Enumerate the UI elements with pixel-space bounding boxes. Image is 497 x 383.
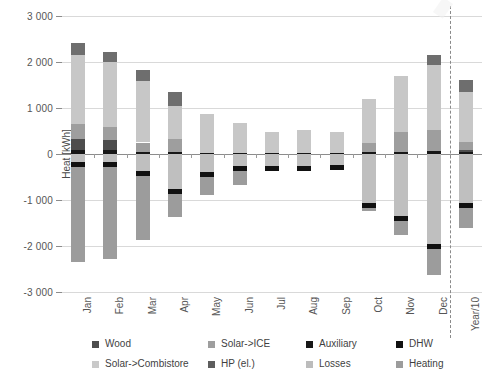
legend-item[interactable]: DHW — [396, 339, 484, 349]
bar-segment — [394, 76, 408, 133]
x-tick-mark — [191, 154, 192, 158]
bar-segment — [168, 92, 182, 106]
x-tick-mark — [417, 154, 418, 158]
bar-segment — [233, 123, 247, 152]
bar-segment — [265, 154, 279, 166]
legend-swatch-icon — [306, 341, 313, 348]
legend-label: HP (el.) — [221, 359, 255, 369]
chart-legend: WoodSolar->ICEAuxiliaryDHWSolar->Combist… — [92, 334, 484, 374]
bar-segment — [362, 208, 376, 211]
legend-swatch-icon — [92, 341, 99, 348]
bar-segment — [427, 65, 441, 129]
legend-item[interactable]: HP (el.) — [208, 359, 306, 369]
bar-segment — [459, 208, 473, 228]
x-tick-mark — [385, 154, 386, 158]
legend-item[interactable]: Solar->ICE — [208, 339, 306, 349]
bar-segment — [459, 150, 473, 152]
y-tick-mark — [56, 154, 62, 155]
bar-stack — [168, 16, 182, 292]
bar-segment — [427, 249, 441, 275]
bar-segment — [168, 106, 182, 138]
legend-item[interactable]: Wood — [92, 339, 208, 349]
legend-swatch-icon — [92, 361, 99, 368]
y-axis-tick-label: -3 000 — [23, 287, 53, 298]
legend-label: Heating — [409, 359, 443, 369]
x-tick-mark — [320, 154, 321, 158]
year-divider-line — [450, 6, 451, 338]
legend-item[interactable]: Heating — [396, 359, 484, 369]
x-axis-tick-label: Sep — [341, 297, 352, 315]
bar-segment — [136, 154, 150, 171]
bar-segment — [297, 154, 311, 166]
legend-swatch-icon — [396, 341, 403, 348]
bar-segment — [71, 43, 85, 55]
x-axis-tick-label: Mar — [147, 297, 158, 314]
x-axis-tick-label: Feb — [114, 297, 125, 314]
bar-segment — [233, 171, 247, 184]
bar-segment — [330, 132, 344, 153]
bar-segment — [297, 130, 311, 153]
bar-segment — [330, 154, 344, 165]
bar-stack — [394, 16, 408, 292]
y-tick-mark — [56, 292, 62, 293]
bar-stack — [362, 16, 376, 292]
x-tick-mark — [288, 154, 289, 158]
bar-segment — [103, 52, 117, 62]
bar-segment — [427, 130, 441, 151]
chart-root: Heat [kWh] 3 0002 0001 0000-1 000-2 000-… — [0, 0, 497, 383]
bar-segment — [168, 194, 182, 217]
legend-label: Solar->ICE — [221, 339, 270, 349]
legend-label: Wood — [105, 339, 131, 349]
bar-segment — [394, 154, 408, 216]
x-tick-mark — [256, 154, 257, 158]
y-tick-mark — [56, 200, 62, 201]
bar-segment — [394, 132, 408, 152]
bar-segment — [103, 62, 117, 126]
y-axis-tick-label: 3 000 — [27, 11, 53, 22]
x-axis-tick-label: Dec — [438, 297, 449, 315]
y-axis-tick-label: -2 000 — [23, 241, 53, 252]
bar-stack — [233, 16, 247, 292]
x-axis-tick-label: Jan — [82, 297, 93, 313]
bar-segment — [103, 167, 117, 259]
legend-item[interactable]: Auxiliary — [306, 339, 396, 349]
bar-segment — [265, 166, 279, 171]
bar-segment — [362, 143, 376, 151]
bar-segment — [71, 167, 85, 262]
bar-segment — [71, 124, 85, 139]
bar-segment — [394, 221, 408, 235]
legend-item[interactable]: Losses — [306, 359, 396, 369]
bar-stack — [103, 16, 117, 292]
legend-label: Auxiliary — [319, 339, 357, 349]
bar-segment — [459, 80, 473, 92]
x-axis-tick-label: Aug — [308, 297, 319, 315]
legend-label: Solar->Combistore — [105, 359, 189, 369]
bar-stack — [459, 16, 473, 292]
bar-segment — [71, 139, 85, 151]
bar-segment — [362, 154, 376, 203]
y-axis-tick-label: -1 000 — [23, 195, 53, 206]
x-tick-mark — [127, 154, 128, 158]
x-axis-tick-label: Nov — [405, 297, 416, 315]
legend-label: Losses — [319, 359, 351, 369]
legend-label: DHW — [409, 339, 433, 349]
bar-segment — [459, 154, 473, 203]
bar-segment — [103, 154, 117, 162]
bar-stack — [136, 16, 150, 292]
bar-stack — [200, 16, 214, 292]
y-tick-mark — [56, 16, 62, 17]
bar-segment — [233, 154, 247, 166]
legend-item[interactable]: Solar->Combistore — [92, 359, 208, 369]
legend-swatch-icon — [208, 361, 215, 368]
bar-segment — [200, 114, 214, 152]
bar-segment — [362, 99, 376, 143]
bar-segment — [136, 143, 150, 153]
bar-segment — [136, 81, 150, 142]
bar-segment — [297, 166, 311, 171]
x-axis-tick-label: Apr — [179, 297, 190, 313]
bar-segment — [71, 154, 85, 162]
bar-segment — [459, 142, 473, 150]
bar-stack — [427, 16, 441, 292]
x-axis-tick-label: Jul — [276, 297, 287, 310]
y-axis-tick-label: 1 000 — [27, 103, 53, 114]
